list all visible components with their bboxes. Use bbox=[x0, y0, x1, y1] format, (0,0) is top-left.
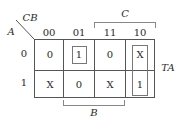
cell-0-11: 0 bbox=[95, 40, 125, 69]
cell-1-11: X bbox=[95, 70, 125, 99]
group-label-ta: TA bbox=[158, 62, 178, 73]
row-header-0: 0 bbox=[18, 48, 30, 59]
bracket-c bbox=[94, 22, 156, 28]
cell-0-00: 0 bbox=[35, 40, 65, 69]
bracket-b bbox=[63, 100, 125, 106]
kmap-grid: 0 1 0 X X 0 X 1 bbox=[34, 39, 155, 98]
col-header-00: 00 bbox=[34, 27, 64, 38]
group-box-01 bbox=[72, 46, 87, 64]
group-label-b: B bbox=[84, 107, 104, 118]
col-header-01: 01 bbox=[64, 27, 94, 38]
corner-label-a: A bbox=[5, 26, 17, 37]
cell-1-01: 0 bbox=[64, 70, 94, 99]
group-label-c: C bbox=[115, 8, 135, 19]
row-header-1: 1 bbox=[18, 77, 30, 88]
group-box-10 bbox=[132, 45, 148, 96]
col-header-10: 10 bbox=[125, 27, 155, 38]
col-header-11: 11 bbox=[95, 27, 125, 38]
cell-1-00: X bbox=[35, 70, 65, 99]
corner-label-cb: CB bbox=[22, 12, 38, 23]
